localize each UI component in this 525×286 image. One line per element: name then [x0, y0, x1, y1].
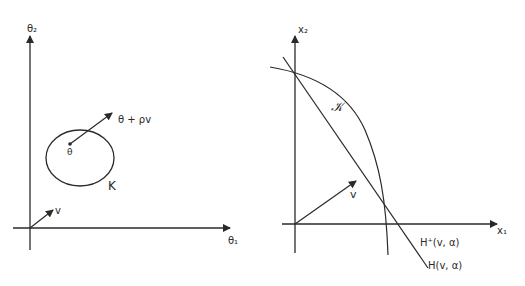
- v-vector-label-right: v: [350, 189, 357, 200]
- v-vector-arrow-right: [295, 181, 356, 224]
- left-panel: [13, 36, 230, 250]
- halfspace-h-plus-label: H⁺(v, α): [420, 238, 459, 248]
- theta-plus-rho-v-label: θ + ρv: [118, 115, 151, 125]
- x1-axis-label: x₁: [497, 226, 507, 236]
- set-k-label: K: [108, 180, 116, 192]
- x2-axis-label: x₂: [298, 25, 308, 35]
- v-vector-label: v: [55, 206, 61, 216]
- set-k-boundary-curve: [270, 67, 388, 255]
- theta-point-label: θ: [67, 148, 73, 157]
- set-k-script-label: 𝒦: [331, 100, 343, 113]
- set-k-ellipse: [46, 130, 114, 186]
- hyperplane-h-label: H(v, α): [428, 261, 462, 271]
- theta1-axis-label: θ₁: [228, 236, 238, 246]
- theta2-axis-label: θ₂: [27, 24, 37, 34]
- hyperplane-h-line: [283, 57, 428, 268]
- v-vector-arrow: [30, 210, 53, 228]
- right-panel: [270, 36, 497, 268]
